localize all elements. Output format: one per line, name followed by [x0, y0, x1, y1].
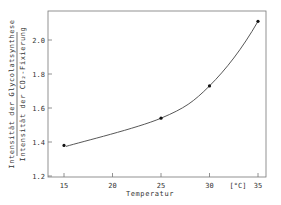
data-point [159, 117, 162, 120]
x-axis-label: Temperatur [126, 190, 174, 198]
x-tick-label: 15 [60, 182, 68, 190]
chart-canvas: 1.21.41.61.82.0 1520253035 [°C] Temperat… [0, 0, 281, 205]
y-axis-label-denominator: Intensität der CO₂-Fixierung [19, 27, 27, 162]
y-axis-label: Intensität der Glycolatsynthese Intensit… [8, 19, 27, 168]
fit-curve [66, 21, 258, 146]
data-point [62, 144, 65, 147]
y-axis-ticks: 1.21.41.61.82.0 [32, 37, 52, 181]
y-tick-label: 2.0 [32, 37, 45, 45]
y-axis-label-numerator: Intensität der Glycolatsynthese [8, 19, 16, 168]
data-point [208, 84, 211, 87]
plot-frame [48, 11, 266, 177]
y-tick-label: 1.2 [32, 173, 45, 181]
y-tick-label: 1.8 [32, 71, 45, 79]
data-points [62, 20, 259, 147]
x-tick-label: 35 [254, 182, 262, 190]
x-unit-label: [°C] [230, 182, 247, 190]
x-tick-label: 25 [157, 182, 165, 190]
x-tick-label: 20 [108, 182, 116, 190]
y-tick-label: 1.4 [32, 139, 45, 147]
data-point [256, 20, 259, 23]
y-tick-label: 1.6 [32, 105, 45, 113]
x-tick-label: 30 [205, 182, 213, 190]
